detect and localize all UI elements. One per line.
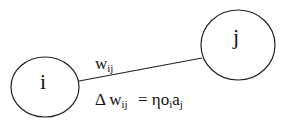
a-sub: j [179,98,183,110]
hebbian-diagram: i j wij Δ wij = ηoiaj [0,0,285,127]
weight-sub: ij [107,62,113,74]
node-i-label: i [40,69,46,94]
weight-label: wij [95,54,113,74]
weight-main: w [95,54,108,73]
update-rule: Δ wij = ηoiaj [95,90,183,112]
eta-o: ηo [152,90,169,109]
equals-sign: = [138,90,148,109]
delta-symbol: Δ [95,90,106,109]
rule-w: w [109,90,122,109]
node-j-label: j [232,24,239,49]
rule-w-sub: ij [122,98,128,110]
